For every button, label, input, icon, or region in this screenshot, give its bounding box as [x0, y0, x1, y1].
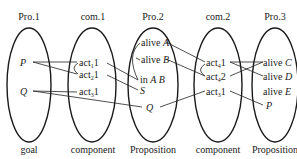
node-in-AB: in A B — [140, 74, 165, 85]
node-P-pro1: P — [19, 57, 26, 68]
caption-com1: component — [71, 144, 116, 155]
title-pro1: Pro.1 — [18, 11, 39, 22]
node-P-pro3: P — [265, 100, 272, 111]
ellipse-com2 — [194, 28, 242, 142]
title-pro3: Pro.3 — [264, 11, 285, 22]
diagram-canvas: Pro.1 com.1 Pro.2 com.2 Pro.3 goal compo… — [0, 0, 297, 159]
node-act3-1: act31 — [79, 86, 99, 98]
ellipse-com1 — [68, 28, 116, 142]
node-alive-C: alive C — [263, 57, 292, 68]
ellipse-pro1 — [7, 28, 51, 142]
node-Q-pro1: Q — [20, 86, 28, 97]
ellipse-pro3 — [252, 28, 297, 142]
node-alive-D: alive D — [263, 71, 293, 82]
caption-com2: component — [196, 144, 241, 155]
node-act4-2: act42 — [206, 71, 226, 83]
node-Q-pro2: Q — [146, 102, 154, 113]
node-act3-1-com2: act31 — [206, 86, 226, 98]
title-pro2: Pro.2 — [142, 11, 163, 22]
node-act2-1: act21 — [79, 69, 99, 81]
node-alive-E: alive E — [263, 86, 291, 97]
node-alive-A: alive A — [141, 37, 170, 48]
node-act4-1: act41 — [206, 57, 226, 69]
node-S: S — [140, 85, 145, 96]
title-com1: com.1 — [81, 11, 106, 22]
caption-pro3: Proposition — [252, 144, 297, 155]
node-alive-B: alive B — [141, 54, 169, 65]
caption-pro1: goal — [20, 144, 37, 155]
node-act1-1: act11 — [79, 57, 99, 69]
title-com2: com.2 — [206, 11, 231, 22]
caption-pro2: Proposition — [130, 144, 176, 155]
